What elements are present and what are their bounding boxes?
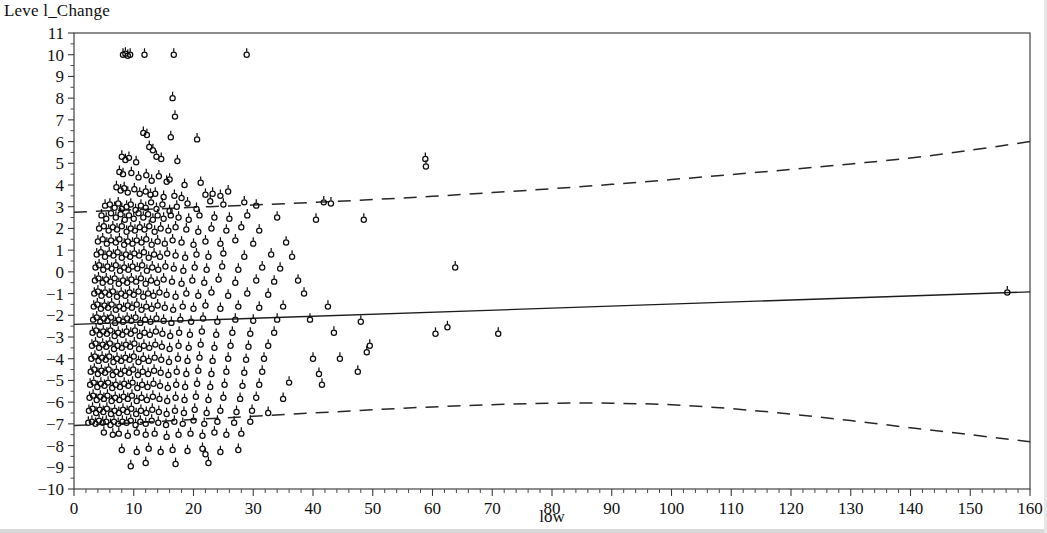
data-point-marker [301,287,306,296]
x-tick-label: 130 [838,499,864,518]
data-point-marker [193,390,198,399]
data-point-marker [272,326,277,335]
data-point-marker [151,364,156,373]
data-point-marker [100,233,105,242]
data-point-marker [155,299,160,308]
data-point-marker [145,381,150,390]
data-point-marker [94,311,99,320]
data-point-marker [107,350,112,359]
data-point-marker [151,289,156,298]
data-point-marker [141,339,146,348]
data-point-marker [166,224,171,233]
data-point-marker [272,275,277,284]
data-point-marker [179,236,184,245]
data-point-marker [203,448,208,457]
data-point-marker [143,428,148,437]
data-point-marker [146,354,151,363]
data-point-marker [91,313,96,322]
data-point-marker [117,233,122,242]
data-point-marker [138,404,143,413]
data-point-marker [260,365,265,374]
prediction-bands [74,142,1030,442]
data-point-marker [144,407,149,416]
data-point-marker [216,273,221,282]
data-point-marker [204,407,209,416]
data-point-marker [112,272,117,281]
data-point-marker [325,300,330,309]
data-point-marker [151,377,156,386]
data-point-marker [281,300,286,309]
data-point-marker [182,394,187,403]
data-point-marker [110,285,115,294]
data-point-marker [108,311,113,320]
data-point-marker [199,325,204,334]
data-point-marker [144,394,149,403]
data-point-marker [92,274,97,283]
data-point-marker [209,368,214,377]
data-point-marker [337,352,342,361]
data-point-marker [157,250,162,259]
data-point-marker [154,276,159,285]
data-point-marker [140,378,145,387]
data-point-marker [91,376,96,385]
data-point-marker [125,186,130,195]
data-points [86,47,1010,469]
data-point-marker [177,326,182,335]
data-point-marker [233,276,238,285]
x-tick-label: 160 [1017,499,1043,518]
data-point-marker [120,168,125,177]
data-point-marker [88,365,93,374]
data-point-marker [119,444,124,453]
data-point-marker [162,301,167,310]
data-point-marker [172,110,177,119]
y-axis-ticks [68,33,74,489]
data-point-marker [194,248,199,257]
data-point-marker [132,337,137,346]
data-point-marker [226,289,231,298]
data-point-marker [202,276,207,285]
data-point-marker [445,321,450,330]
data-point-marker [233,313,238,322]
data-point-marker [212,341,217,350]
data-point-marker [174,365,179,374]
y-tick-label: 5 [56,154,65,173]
data-point-marker [174,378,179,387]
data-point-marker [331,326,336,335]
data-point-marker [239,221,244,230]
data-point-marker [92,363,97,372]
data-point-marker [261,352,266,361]
data-point-marker [221,198,226,207]
data-point-marker [140,365,145,374]
data-point-marker [179,277,184,286]
data-point-marker [185,354,190,363]
data-point-marker [138,272,143,281]
data-point-marker [164,408,169,417]
data-point-marker [159,353,164,362]
data-point-marker [364,346,369,355]
data-point-marker [209,222,214,231]
data-point-marker [310,352,315,361]
data-point-marker [236,263,241,272]
data-point-marker [164,288,169,297]
data-point-marker [188,427,193,436]
data-point-marker [142,326,147,335]
data-point-marker [176,428,181,437]
data-point-marker [149,238,154,247]
data-point-marker [132,224,137,233]
y-tick-label: −7 [46,415,65,434]
data-point-marker [163,260,168,269]
data-point-marker [218,404,223,413]
data-point-marker [129,389,134,398]
data-point-marker [156,406,161,415]
x-tick-label: 100 [659,499,685,518]
y-axis-tick-labels: 11109876543210−1−2−3−4−5−6−7−8−9−10 [37,24,64,499]
data-point-marker [89,339,94,348]
data-point-marker [95,298,100,307]
data-point-marker [191,238,196,247]
data-point-marker [164,430,169,439]
data-point-marker [137,187,142,196]
data-point-marker [142,223,147,232]
data-point-marker [143,313,148,322]
data-point-marker [496,327,501,336]
data-point-marker [160,327,165,336]
